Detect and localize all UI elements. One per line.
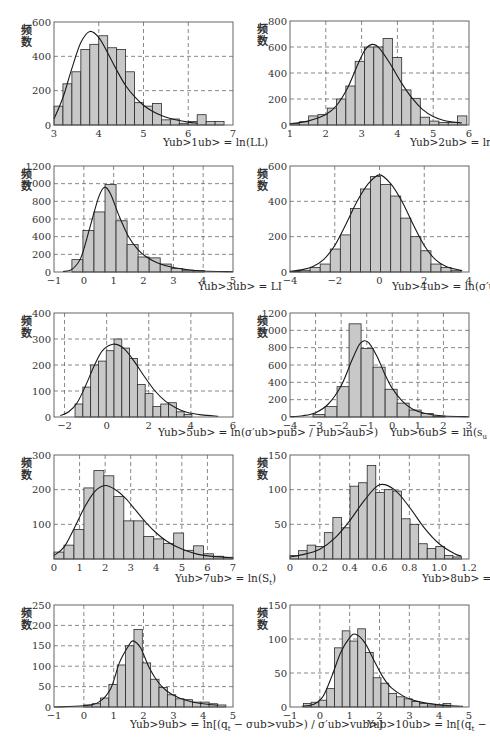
histogram-bar	[381, 683, 389, 707]
y-tick-label: 0	[281, 702, 287, 713]
x-tick-label: 1	[346, 710, 352, 721]
histogram-bar	[365, 653, 373, 707]
histogram-bar	[412, 702, 420, 707]
histogram-bar	[319, 700, 327, 707]
y-tick-label: 150	[268, 600, 287, 611]
y-axis-label: 频数	[257, 606, 269, 632]
y-tick-label: 50	[274, 668, 287, 679]
histogram-bar	[389, 693, 397, 707]
histogram-bar	[350, 641, 358, 707]
histogram-panel-y10: −1012345050100150频数Yub>10ub> = ln[(qt − …	[0, 0, 490, 745]
x-axis-label: Yub>10ub> = ln[(qt − u2) / σ′ub>vub>]	[367, 718, 490, 733]
histogram-bar	[358, 629, 366, 707]
histogram-bar	[334, 648, 342, 707]
histogram-bar	[404, 699, 412, 707]
histogram-bar	[327, 689, 335, 707]
x-tick-label: 0	[317, 710, 323, 721]
y-tick-label: 100	[268, 634, 287, 645]
histogram-chart-y10: −1012345050100150频数	[0, 0, 490, 745]
histogram-bar	[420, 704, 428, 707]
histogram-bar	[397, 697, 405, 707]
histogram-bar	[373, 678, 381, 707]
